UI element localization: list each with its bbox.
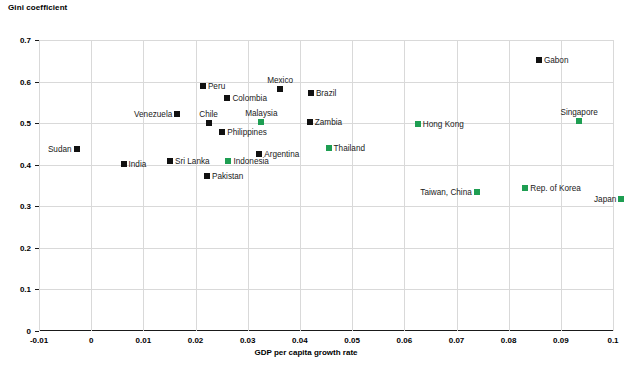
y-tick-label: 0.6 [20, 77, 31, 86]
data-point-marker[interactable] [277, 86, 283, 92]
x-axis-line [39, 330, 613, 331]
data-point-marker[interactable] [258, 119, 264, 125]
y-tick-mark [35, 248, 39, 249]
gridline-vertical [613, 40, 614, 331]
data-point-label: Brazil [316, 89, 336, 98]
y-tick-label: 0.5 [20, 119, 31, 128]
data-point-marker[interactable] [576, 118, 582, 124]
gridline-vertical [457, 40, 458, 331]
data-point-label: Sudan [48, 144, 72, 153]
data-point-marker[interactable] [522, 185, 528, 191]
x-tick-label: 0.1 [607, 336, 618, 345]
data-point-label: Malaysia [245, 109, 277, 118]
gridline-vertical [352, 40, 353, 331]
data-point-label: Pakistan [212, 171, 243, 180]
y-tick-mark [35, 206, 39, 207]
data-point-marker[interactable] [308, 90, 314, 96]
data-point-label: Philippines [227, 127, 267, 136]
y-tick-mark [35, 40, 39, 41]
data-point-label: Hong Kong [423, 120, 464, 129]
gridline-vertical [248, 40, 249, 331]
data-point-marker[interactable] [256, 151, 262, 157]
gridline-horizontal [39, 82, 613, 83]
data-point-label: Gabon [544, 56, 569, 65]
data-point-marker[interactable] [74, 146, 80, 152]
y-tick-mark [35, 123, 39, 124]
data-point-marker[interactable] [206, 120, 212, 126]
data-point-marker[interactable] [415, 121, 421, 127]
gridline-vertical [509, 40, 510, 331]
x-tick-label: 0.05 [344, 336, 360, 345]
data-point-marker[interactable] [536, 57, 542, 63]
y-tick-mark [35, 331, 39, 332]
data-point-marker[interactable] [174, 111, 180, 117]
data-point-label: Thailand [334, 144, 365, 153]
plot-area: -0.0100.010.020.030.040.050.060.070.080.… [39, 40, 613, 331]
gridline-vertical [39, 40, 40, 331]
x-tick-label: 0.04 [292, 336, 308, 345]
data-point-label: Taiwan, China [420, 188, 471, 197]
x-tick-label: 0.07 [449, 336, 465, 345]
data-point-marker[interactable] [326, 145, 332, 151]
y-tick-label: 0.2 [20, 243, 31, 252]
data-point-label: Sri Lanka [175, 157, 210, 166]
x-tick-label: 0.03 [240, 336, 256, 345]
data-point-marker[interactable] [219, 129, 225, 135]
gridline-horizontal [39, 289, 613, 290]
gridline-horizontal [39, 206, 613, 207]
data-point-marker[interactable] [121, 161, 127, 167]
gridline-vertical [91, 40, 92, 331]
y-tick-label: 0 [27, 327, 31, 336]
gridline-vertical [143, 40, 144, 331]
data-point-label: Mexico [267, 76, 293, 85]
x-tick-label: 0.09 [553, 336, 569, 345]
data-point-marker[interactable] [225, 158, 231, 164]
data-point-label: Singapore [560, 108, 597, 117]
data-point-label: India [129, 159, 147, 168]
x-tick-label: 0.01 [136, 336, 152, 345]
gridline-horizontal [39, 248, 613, 249]
y-tick-label: 0.4 [20, 160, 31, 169]
data-point-marker[interactable] [200, 83, 206, 89]
data-point-label: Venezuela [134, 109, 172, 118]
data-point-marker[interactable] [167, 158, 173, 164]
data-point-label: Argentina [264, 149, 299, 158]
data-point-label: Rep. of Korea [530, 183, 581, 192]
data-point-label: Colombia [232, 93, 267, 102]
x-tick-label: 0.08 [501, 336, 517, 345]
data-point-marker[interactable] [618, 196, 624, 202]
x-tick-label: 0.02 [188, 336, 204, 345]
y-tick-mark [35, 82, 39, 83]
y-tick-label: 0.7 [20, 36, 31, 45]
data-point-label: Peru [208, 81, 225, 90]
y-tick-label: 0.1 [20, 285, 31, 294]
data-point-marker[interactable] [474, 189, 480, 195]
x-tick-label: -0.01 [30, 336, 48, 345]
y-tick-label: 0.3 [20, 202, 31, 211]
gridline-vertical [300, 40, 301, 331]
data-point-marker[interactable] [224, 95, 230, 101]
data-point-label: Japan [594, 195, 616, 204]
y-tick-mark [35, 165, 39, 166]
x-tick-label: 0.06 [397, 336, 413, 345]
gridline-horizontal [39, 40, 613, 41]
x-tick-label: 0 [89, 336, 93, 345]
data-point-label: Chile [199, 110, 218, 119]
gridline-vertical [196, 40, 197, 331]
gridline-vertical [404, 40, 405, 331]
y-tick-mark [35, 289, 39, 290]
x-axis-title: GDP per capita growth rate [0, 348, 612, 357]
data-point-marker[interactable] [204, 173, 210, 179]
data-point-marker[interactable] [307, 119, 313, 125]
chart-title: Gini coefficient [8, 3, 67, 12]
data-point-label: Zambia [315, 117, 342, 126]
